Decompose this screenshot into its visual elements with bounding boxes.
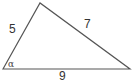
- side-right-label: 7: [84, 17, 91, 31]
- angle-alpha-label: α: [8, 59, 14, 69]
- side-left-label: 5: [9, 22, 16, 36]
- side-base-label: 9: [59, 69, 66, 81]
- triangle-shape: [3, 3, 130, 69]
- triangle-diagram: 5 7 9 α: [0, 0, 132, 81]
